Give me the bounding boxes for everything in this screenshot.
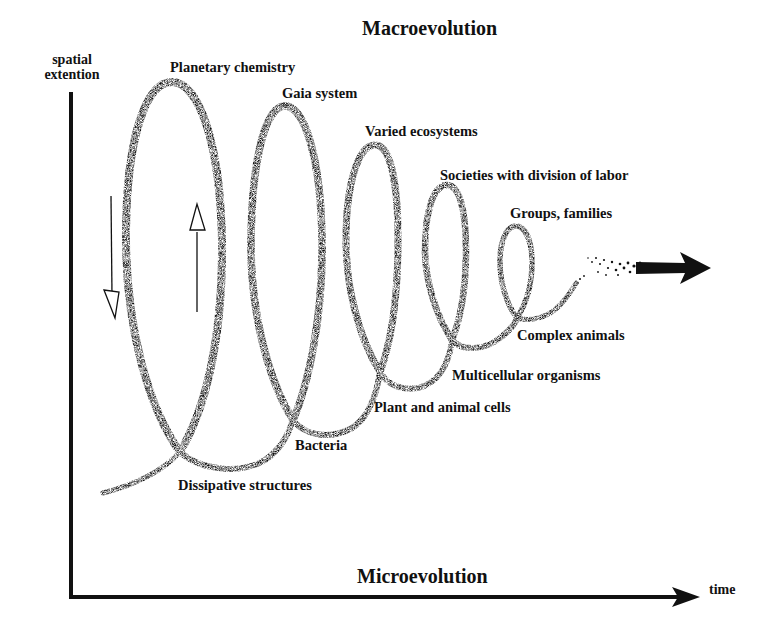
- label-planetary-chemistry: Planetary chemistry: [170, 60, 295, 75]
- macroevolution-title: Macroevolution: [362, 18, 497, 38]
- y-axis-label-line1: spatial: [34, 53, 110, 68]
- label-groups-families: Groups, families: [510, 206, 612, 221]
- label-gaia-system: Gaia system: [282, 86, 357, 101]
- spiral-curve: [103, 82, 576, 493]
- label-complex-animals: Complex animals: [517, 328, 625, 343]
- x-axis-label: time: [709, 583, 735, 598]
- microevolution-title: Microevolution: [357, 566, 488, 586]
- evolution-spiral-diagram: [0, 0, 771, 636]
- up-arrow-icon: [190, 204, 205, 312]
- x-axis: [69, 587, 700, 607]
- label-varied-ecosystems: Varied ecosystems: [365, 124, 478, 139]
- label-plant-animal-cells: Plant and animal cells: [374, 400, 511, 415]
- label-societies-division-labor: Societies with division of labor: [440, 168, 629, 183]
- label-multicellular-organisms: Multicellular organisms: [452, 368, 600, 383]
- y-axis-label-line2: extention: [34, 68, 110, 83]
- label-dissipative-structures: Dissipative structures: [178, 478, 312, 493]
- forward-arrow-icon: [636, 252, 711, 284]
- spiral-fade-dots: [577, 257, 641, 284]
- down-arrow-icon: [104, 196, 119, 318]
- label-bacteria: Bacteria: [295, 438, 347, 453]
- y-axis-label: spatial extention: [34, 53, 110, 82]
